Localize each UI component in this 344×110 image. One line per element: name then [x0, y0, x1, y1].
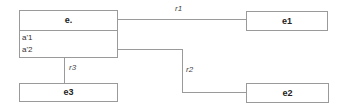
relation-r2-label: r2	[186, 65, 193, 74]
entity-e1-title: e1	[247, 12, 327, 30]
entity-e-title: e.	[20, 11, 117, 31]
relation-r3-line[interactable]	[64, 58, 65, 83]
entity-e-attribute: a'2	[20, 44, 117, 56]
relation-r2-line[interactable]	[182, 92, 246, 93]
entity-e2[interactable]: e2	[246, 83, 329, 103]
relation-r1-line[interactable]	[118, 19, 246, 20]
entity-e3[interactable]: e3	[19, 83, 118, 102]
entity-e[interactable]: e. a'1 a'2	[19, 10, 118, 58]
relation-r2-line[interactable]	[118, 49, 183, 50]
entity-e1[interactable]: e1	[246, 11, 328, 31]
relation-r3-label: r3	[69, 63, 76, 72]
entity-e-attribute: a'1	[20, 32, 117, 44]
relation-r1-label: r1	[175, 4, 182, 13]
entity-e3-title: e3	[20, 84, 117, 101]
relation-r2-line[interactable]	[182, 49, 183, 93]
entity-e2-title: e2	[247, 84, 328, 102]
